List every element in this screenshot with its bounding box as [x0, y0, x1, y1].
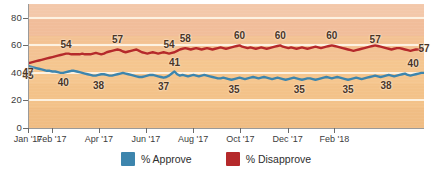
data-label-approve-100: 35	[294, 84, 305, 95]
data-label-approve-26: 38	[93, 80, 104, 91]
y-tick-label-40: 40	[0, 67, 22, 78]
x-tick-label-3: Jun '17	[132, 134, 161, 144]
legend-swatch-icon-1	[226, 152, 240, 166]
data-label-disapprove-128: 57	[370, 34, 381, 45]
data-label-disapprove-0: 47	[22, 67, 33, 78]
chart-legend: % Approve% Disapprove	[0, 152, 432, 166]
y-tick-label-20: 20	[0, 94, 22, 105]
data-label-disapprove-14: 54	[60, 39, 71, 50]
series-lines	[28, 4, 424, 128]
x-tick-mark-7	[334, 128, 335, 133]
data-label-disapprove-142: 57	[418, 43, 429, 54]
x-tick-mark-3	[146, 128, 147, 133]
legend-label-0: % Approve	[141, 153, 192, 165]
x-tick-mark-2	[99, 128, 100, 133]
y-tick-label-60: 60	[0, 39, 22, 50]
data-label-disapprove-52: 54	[163, 39, 174, 50]
x-tick-mark-0	[28, 128, 29, 133]
x-tick-label-6: Dec '17	[272, 134, 302, 144]
x-tick-label-4: Aug '17	[178, 134, 208, 144]
legend-swatch-icon-0	[121, 152, 135, 166]
x-axis-line	[28, 128, 424, 129]
y-tick-mark-20	[23, 100, 28, 101]
data-label-approve-142: 40	[408, 58, 419, 69]
series-line-approve	[28, 66, 424, 80]
chart-container: 020406080 Jan '17Feb '17Apr '17Jun '17Au…	[0, 0, 432, 177]
y-tick-mark-60	[23, 45, 28, 46]
x-tick-mark-5	[240, 128, 241, 133]
x-tick-mark-6	[288, 128, 289, 133]
plot-area	[28, 4, 424, 128]
data-label-disapprove-78: 60	[234, 30, 245, 41]
legend-label-1: % Disapprove	[246, 153, 311, 165]
data-label-disapprove-33: 57	[112, 34, 123, 45]
x-tick-mark-1	[52, 128, 53, 133]
series-line-disapprove	[28, 45, 424, 63]
data-label-approve-50: 37	[158, 81, 169, 92]
y-tick-mark-80	[23, 18, 28, 19]
y-tick-label-0: 0	[0, 122, 22, 133]
y-tick-label-80: 80	[0, 12, 22, 23]
data-label-disapprove-112: 60	[326, 30, 337, 41]
data-label-approve-13: 40	[58, 77, 69, 88]
data-label-approve-76: 35	[229, 84, 240, 95]
data-label-disapprove-58: 58	[180, 33, 191, 44]
x-tick-label-5: Oct '17	[226, 134, 254, 144]
data-label-approve-118: 35	[342, 84, 353, 95]
data-label-approve-54: 41	[169, 57, 180, 68]
x-tick-label-2: Apr '17	[85, 134, 113, 144]
legend-item-approve[interactable]: % Approve	[121, 152, 192, 166]
data-label-disapprove-93: 60	[275, 30, 286, 41]
y-axis-line	[28, 4, 29, 128]
data-label-approve-132: 38	[380, 80, 391, 91]
x-tick-mark-4	[193, 128, 194, 133]
x-tick-label-1: Feb '17	[37, 134, 67, 144]
x-tick-label-7: Feb '18	[320, 134, 350, 144]
legend-item-disapprove[interactable]: % Disapprove	[226, 152, 311, 166]
